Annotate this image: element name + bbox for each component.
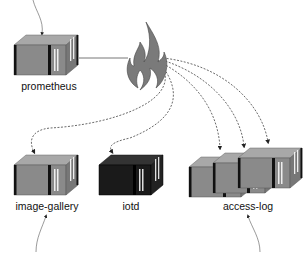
server-prometheus <box>14 35 78 75</box>
label-access-log: access-log <box>205 200 291 212</box>
incoming-arrow-access-log <box>248 216 260 252</box>
server-image-gallery <box>14 155 78 195</box>
link-firewall-access-log-1 <box>160 62 220 148</box>
incoming-arrow-image-gallery <box>36 216 46 252</box>
label-prometheus: prometheus <box>14 80 84 92</box>
link-firewall-access-log-2 <box>162 60 244 146</box>
server-access-log-3 <box>238 148 302 188</box>
link-firewall-access-log-3 <box>163 58 268 142</box>
incoming-arrow-prometheus <box>33 0 42 34</box>
label-image-gallery: image-gallery <box>4 200 90 212</box>
server-iotd <box>99 155 163 195</box>
fire-icon <box>127 22 167 90</box>
architecture-diagram <box>0 0 308 256</box>
label-iotd: iotd <box>99 200 163 212</box>
